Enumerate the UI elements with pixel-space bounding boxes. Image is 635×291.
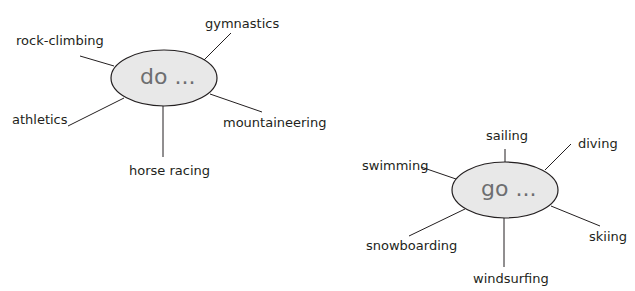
- label-snowboarding: snowboarding: [366, 239, 457, 252]
- label-swimming: swimming: [362, 159, 428, 172]
- do-center-label: do ...: [140, 66, 195, 88]
- label-diving: diving: [578, 137, 618, 150]
- label-athletics: athletics: [12, 113, 68, 126]
- label-sailing: sailing: [486, 129, 528, 142]
- label-horse-racing: horse racing: [129, 164, 210, 177]
- label-skiing: skiing: [589, 230, 627, 243]
- label-windsurfing: windsurfing: [473, 272, 549, 285]
- go-center-label: go ...: [481, 178, 536, 200]
- label-rock-climbing: rock-climbing: [16, 34, 104, 47]
- label-mountaineering: mountaineering: [223, 116, 326, 129]
- label-gymnastics: gymnastics: [205, 17, 279, 30]
